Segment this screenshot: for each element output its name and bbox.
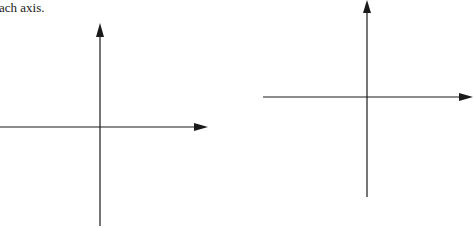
right-y-axis-arrowhead-icon <box>363 0 371 13</box>
left-x-axis-arrowhead-icon <box>194 123 208 131</box>
left-coordinate-axes <box>0 23 208 226</box>
axes-diagrams <box>0 0 474 228</box>
right-x-axis-arrowhead-icon <box>459 93 473 101</box>
right-coordinate-axes <box>263 0 473 197</box>
left-y-axis-arrowhead-icon <box>96 23 104 37</box>
